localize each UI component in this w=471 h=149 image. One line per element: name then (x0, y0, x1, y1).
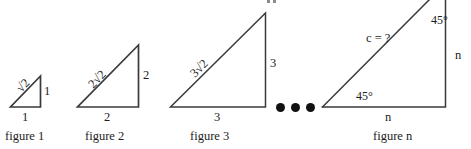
ellipsis-dot-2 (291, 103, 300, 112)
triangle-1-caption: figure 1 (5, 130, 44, 143)
triangle-2-vertical-label: 2 (143, 69, 149, 82)
triangle-n-vertical-label: n (455, 49, 461, 62)
triangle-n-caption: figure n (373, 130, 412, 143)
triangle-3-vertical-label: 3 (270, 57, 276, 70)
triangle-n-base-label: n (385, 111, 391, 124)
triangle-n-angle-top-label: 45° (431, 14, 448, 26)
cropped-mark-above-triangle-3 (267, 0, 276, 3)
triangle-1-vertical-label: 1 (44, 85, 50, 98)
triangle-n-hypotenuse-label: c = ? (366, 32, 390, 45)
triangle-2-caption: figure 2 (85, 130, 124, 143)
triangle-3-shape (171, 13, 266, 107)
triangle-n-angle-bottom-label: 45° (356, 90, 373, 102)
ellipsis-dot-1 (276, 103, 285, 112)
triangles-svg (0, 0, 471, 149)
figure-sequence-diagram: √2 1 1 figure 1 2√2 2 2 figure 2 3√2 3 3… (0, 0, 471, 149)
ellipsis-dot-3 (306, 103, 315, 112)
triangle-3-caption: figure 3 (190, 130, 229, 143)
triangle-2-base-label: 2 (104, 111, 110, 124)
triangle-1-base-label: 1 (22, 111, 28, 124)
triangle-n-shape (323, 0, 446, 107)
triangle-3-base-label: 3 (214, 111, 220, 124)
